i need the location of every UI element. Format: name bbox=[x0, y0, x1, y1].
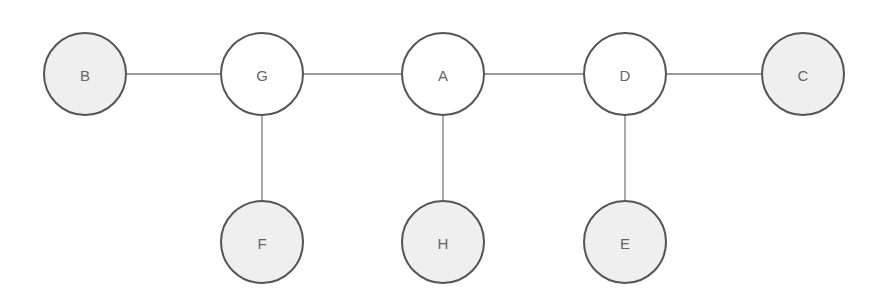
node-label: F bbox=[257, 235, 266, 252]
node-label: G bbox=[256, 67, 268, 84]
node-a: A bbox=[402, 33, 484, 115]
node-label: B bbox=[80, 67, 90, 84]
node-h: H bbox=[402, 201, 484, 283]
node-label: H bbox=[438, 235, 449, 252]
node-label: A bbox=[438, 67, 448, 84]
node-label: E bbox=[620, 235, 630, 252]
node-g: G bbox=[221, 33, 303, 115]
diagram-svg: BGADCFHE bbox=[0, 0, 887, 304]
nodes-group: BGADCFHE bbox=[44, 33, 844, 283]
tree-diagram: BGADCFHE bbox=[0, 0, 887, 304]
node-label: D bbox=[620, 67, 631, 84]
node-d: D bbox=[584, 33, 666, 115]
node-label: C bbox=[798, 67, 809, 84]
node-c: C bbox=[762, 33, 844, 115]
node-b: B bbox=[44, 33, 126, 115]
node-e: E bbox=[584, 201, 666, 283]
node-f: F bbox=[221, 201, 303, 283]
